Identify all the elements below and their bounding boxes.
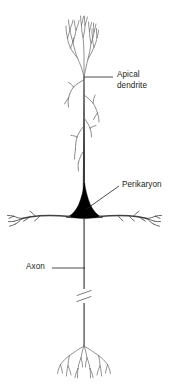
- neuron-diagram: Apical dendrite Perikaryon Axon: [0, 0, 172, 392]
- label-apical-dendrite-line2: dendrite: [117, 81, 147, 90]
- label-perikaryon: Perikaryon: [122, 180, 162, 191]
- neuron-illustration: [0, 0, 172, 392]
- label-apical-dendrite-line1: Apical: [117, 70, 140, 79]
- label-axon: Axon: [26, 262, 45, 273]
- label-apical-dendrite: Apical dendrite: [117, 70, 171, 91]
